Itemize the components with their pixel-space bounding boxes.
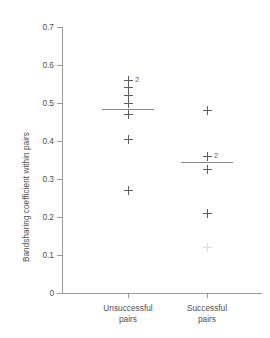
mean-line-successful xyxy=(181,162,233,163)
data-point-marker xyxy=(203,152,212,161)
data-point-marker xyxy=(124,83,133,92)
mean-line-unsuccessful xyxy=(102,109,154,110)
data-point-marker xyxy=(203,165,212,174)
y-tick-mark xyxy=(57,141,62,142)
y-tick-label: 0.1 xyxy=(42,251,54,259)
y-tick-label: 0.2 xyxy=(42,213,54,221)
x-group-label-line2: pairs xyxy=(159,314,255,325)
x-group-label-successful: Successfulpairs xyxy=(159,303,255,325)
data-point-marker xyxy=(124,76,133,85)
y-tick-mark xyxy=(57,293,62,294)
data-point-marker xyxy=(203,243,212,252)
y-tick-mark xyxy=(57,65,62,66)
data-point-marker xyxy=(124,91,133,100)
y-tick-mark xyxy=(57,217,62,218)
point-count-label: 2 xyxy=(214,152,218,160)
y-tick-label: 0.5 xyxy=(42,99,54,107)
data-point-marker xyxy=(124,186,133,195)
plot-area: 0.70.60.50.40.30.20.10 Unsuccessfulpairs… xyxy=(0,0,270,338)
y-tick-mark xyxy=(57,103,62,104)
x-axis-line xyxy=(62,293,262,294)
y-tick-mark xyxy=(57,179,62,180)
x-group-label-line1: Successful xyxy=(159,303,255,314)
y-tick-mark xyxy=(57,255,62,256)
y-tick-label: 0.7 xyxy=(42,23,54,31)
x-tick-mark xyxy=(207,293,208,298)
data-point-marker xyxy=(124,110,133,119)
data-point-marker xyxy=(203,209,212,218)
y-tick-label: 0.4 xyxy=(42,137,54,145)
data-point-marker xyxy=(124,135,133,144)
scatter-chart: Bandsharing coefficient within pairs 0.7… xyxy=(0,0,270,338)
y-tick-label: 0.6 xyxy=(42,61,54,69)
data-point-marker xyxy=(124,99,133,108)
point-count-label: 2 xyxy=(135,76,139,84)
y-tick-label: 0.3 xyxy=(42,175,54,183)
y-axis-line xyxy=(62,27,63,294)
y-tick-mark xyxy=(57,27,62,28)
data-point-marker xyxy=(203,106,212,115)
y-tick-label: 0 xyxy=(49,289,54,297)
x-tick-mark xyxy=(128,293,129,298)
